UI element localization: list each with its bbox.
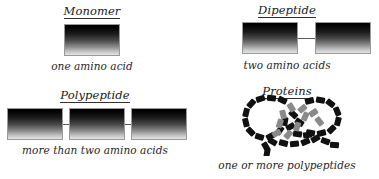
dipeptide-caption: two amino acids [195,59,379,71]
amino-acid-block [7,108,63,140]
panel-proteins: Proteins [195,84,379,179]
dipeptide-title: Dipeptide [195,3,379,17]
polypeptide-title: Polypeptide [0,88,190,102]
amino-acid-block [131,108,187,140]
monomer-chain [64,24,120,56]
monomer-title-text: Monomer [64,4,121,19]
polypeptide-caption-text: more than two amino acids [22,144,168,156]
panel-polypeptide: Polypeptide more than two amino acids [0,86,190,179]
monomer-title: Monomer [0,4,184,18]
panel-dipeptide: Dipeptide two amino acids [195,0,379,90]
monomer-caption: one amino acid [0,60,184,72]
amino-acid-block [242,22,298,54]
folded-polypeptide-tangle-icon [229,94,353,156]
polypeptide-chain [7,108,187,140]
polypeptide-caption: more than two amino acids [0,144,190,156]
peptide-bond-link [298,38,315,39]
proteins-caption: one or more polypeptides [195,159,379,171]
dipeptide-chain [242,22,372,54]
amino-acid-block [64,24,120,56]
panel-monomer: Monomer one amino acid [0,0,184,90]
polypeptide-title-text: Polypeptide [60,88,129,103]
amino-acid-block [69,108,125,140]
dipeptide-title-text: Dipeptide [258,3,316,18]
proteins-caption-text: one or more polypeptides [218,159,355,171]
amino-acid-block [315,22,371,54]
dipeptide-caption-text: two amino acids [243,59,330,71]
monomer-caption-text: one amino acid [51,60,133,72]
